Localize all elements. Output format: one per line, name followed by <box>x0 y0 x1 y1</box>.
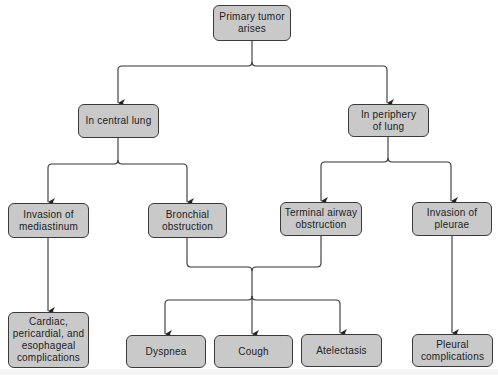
node-terminal-airway-obstruction: Terminal airway obstruction <box>280 202 362 236</box>
node-invasion-pleurae: Invasion of pleurae <box>412 202 492 236</box>
bottom-edge <box>0 369 498 375</box>
node-atelectasis: Atelectasis <box>301 334 382 367</box>
node-central-lung: In central lung <box>78 104 159 138</box>
flowchart-diagram: Primary tumor arises In central lung In … <box>0 0 498 375</box>
node-periphery-lung: In periphery of lung <box>348 104 429 137</box>
node-primary-tumor: Primary tumor arises <box>213 5 291 41</box>
node-cough: Cough <box>214 335 293 368</box>
node-cardiac-complications: Cardiac, pericardial, and esophageal com… <box>8 312 89 368</box>
node-bronchial-obstruction: Bronchial obstruction <box>148 203 227 238</box>
node-invasion-mediastinum: Invasion of mediastinum <box>8 203 89 238</box>
node-dyspnea: Dyspnea <box>126 335 206 368</box>
node-pleural-complications: Pleural complications <box>412 334 493 367</box>
